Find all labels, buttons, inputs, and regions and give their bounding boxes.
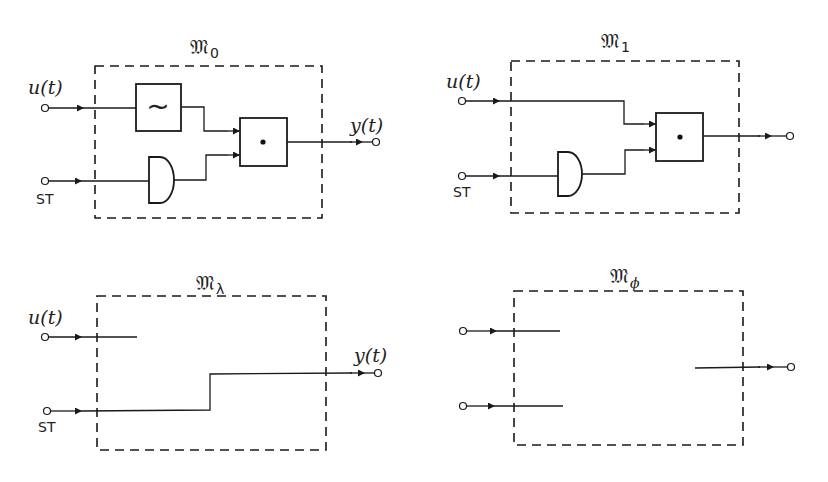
input-terminal-u[interactable] [42, 334, 49, 341]
input-label-st: ST [453, 184, 471, 200]
panel-m-phi: 𝔐ϕ [460, 264, 795, 445]
system-boundary [511, 61, 739, 213]
input-label-u: u(t) [28, 76, 63, 98]
input-terminal-st[interactable] [459, 173, 466, 180]
panel-title: 𝔐λ [196, 271, 224, 297]
panel-title: 𝔐ϕ [610, 264, 640, 291]
output-label-y: y(t) [353, 344, 387, 366]
input-terminal-u[interactable] [42, 105, 49, 112]
input-terminal-1[interactable] [460, 328, 467, 335]
input-terminal-st[interactable] [44, 408, 51, 415]
input-label-u: u(t) [28, 306, 63, 328]
panel-m1: 𝔐1 u(t) ST [446, 29, 794, 213]
tilde-icon: ~ [146, 90, 169, 123]
input-terminal-u[interactable] [459, 98, 466, 105]
output-terminal-y[interactable] [373, 139, 380, 146]
output-label-y: y(t) [349, 114, 383, 136]
input-label-st: ST [36, 191, 54, 207]
output-terminal[interactable] [788, 364, 795, 371]
multiply-dot-icon [260, 139, 265, 144]
gate-block [149, 157, 174, 203]
gate-block [558, 152, 582, 196]
output-terminal[interactable] [787, 133, 794, 140]
panel-m0: 𝔐0 u(t) ~ ST y(t) [28, 35, 383, 218]
input-label-st: ST [38, 419, 56, 435]
input-terminal-st[interactable] [42, 178, 49, 185]
multiply-dot-icon [677, 134, 682, 139]
input-terminal-2[interactable] [460, 403, 467, 410]
panel-m-lambda: 𝔐λ u(t) ST y(t) [28, 271, 387, 450]
panel-title: 𝔐1 [601, 29, 630, 55]
output-terminal-y[interactable] [375, 370, 382, 377]
diagram-canvas: 𝔐0 u(t) ~ ST y(t) 𝔐1 [0, 0, 828, 482]
input-label-u: u(t) [446, 70, 481, 92]
panel-title: 𝔐0 [190, 35, 219, 61]
